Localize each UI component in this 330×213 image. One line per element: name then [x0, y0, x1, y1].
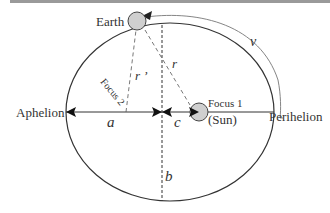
focus2-label: Focus 2	[98, 76, 127, 107]
earth-label: Earth	[96, 14, 125, 29]
aphelion-label: Aphelion	[16, 105, 65, 120]
b-label: b	[165, 168, 173, 184]
r-label: r	[172, 56, 178, 71]
r-line	[145, 30, 190, 105]
earth-body	[128, 12, 146, 30]
focus1-label: Focus 1	[208, 97, 243, 109]
orbit-diagram: Earth Aphelion Perihelion Focus 1 (Sun) …	[0, 0, 330, 213]
sun-label: (Sun)	[208, 112, 237, 127]
c-label: c	[174, 114, 181, 130]
top-border-bar	[10, 0, 330, 3]
perihelion-label: Perihelion	[269, 109, 323, 124]
v-label: v	[250, 34, 257, 49]
a-label: a	[107, 114, 115, 130]
r-prime-label: r ’	[135, 68, 148, 83]
